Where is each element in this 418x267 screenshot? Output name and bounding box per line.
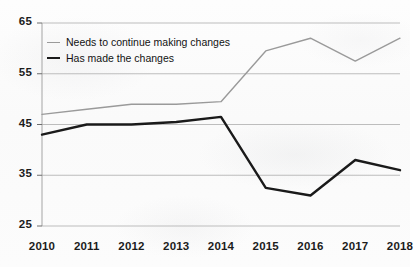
y-axis-tick-label: 65: [6, 15, 32, 27]
x-axis-tick-label: 2011: [67, 240, 107, 252]
x-axis-tick-label: 2018: [380, 240, 418, 252]
legend-line-swatch-icon: [47, 42, 60, 43]
series-line: [42, 117, 400, 196]
y-axis-tick-label: 45: [6, 117, 32, 129]
y-axis-tick-label: 25: [6, 218, 32, 230]
y-axis-tick-label: 55: [6, 66, 32, 78]
x-axis-tick-label: 2010: [22, 240, 62, 252]
x-axis-tick-label: 2016: [291, 240, 331, 252]
legend-item-label: Has made the changes: [66, 52, 174, 64]
x-axis-tick-label: 2015: [246, 240, 286, 252]
series-line: [42, 38, 400, 114]
legend-item-label: Needs to continue making changes: [66, 36, 230, 48]
x-axis-tick-label: 2012: [112, 240, 152, 252]
legend-item-has-made: Has made the changes: [47, 52, 174, 64]
y-axis-tick-label: 35: [6, 167, 32, 179]
legend-item-needs-to-continue: Needs to continue making changes: [47, 36, 230, 48]
x-axis-tick-label: 2013: [156, 240, 196, 252]
x-axis-tick-label: 2014: [201, 240, 241, 252]
legend-line-swatch-icon: [47, 57, 60, 59]
x-axis-tick-label: 2017: [335, 240, 375, 252]
